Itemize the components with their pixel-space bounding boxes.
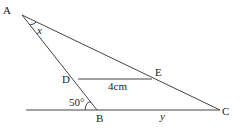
angle-label-x: x <box>36 24 42 36</box>
point-label-d: D <box>62 73 70 85</box>
angle-arc-b <box>85 102 91 110</box>
angle-label-50: 50° <box>69 96 84 108</box>
point-label-c: C <box>222 105 229 117</box>
segment-ab <box>22 15 97 110</box>
point-label-a: A <box>3 4 11 16</box>
segment-label-y: y <box>159 110 165 122</box>
angle-arc-a <box>30 22 36 25</box>
segment-ac <box>22 15 220 110</box>
point-label-b: B <box>96 112 103 124</box>
triangle-diagram: A D E B C x 50° 4cm y <box>0 0 240 130</box>
point-label-e: E <box>155 66 162 78</box>
segment-label-4cm: 4cm <box>108 80 127 92</box>
